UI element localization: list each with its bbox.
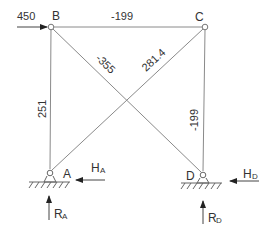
truss-diagram: B C A D 450 -199 251 -199 -355 281.4 H A… [0,0,272,236]
reaction-label-ra: R A [54,207,68,221]
reaction-label-hd: H D [243,167,258,181]
node-label-d: D [186,169,195,183]
member-cd [203,30,205,171]
node-label-a: A [63,167,71,181]
reaction-label-ha: H A [91,161,106,175]
load-label-450: 450 [17,10,35,22]
svg-text:H: H [91,161,100,175]
svg-text:D: D [216,216,222,225]
force-label-cd: -199 [188,109,200,131]
svg-text:A: A [100,166,106,175]
svg-text:A: A [62,212,68,221]
node-label-b: B [52,9,60,23]
force-label-ac: 281.4 [139,46,167,74]
node-label-c: C [195,10,204,24]
truss-svg: B C A D 450 -199 251 -199 -355 281.4 H A… [0,0,272,236]
svg-text:H: H [243,167,252,181]
member-ab [50,27,51,169]
force-label-ab: 251 [36,100,48,118]
force-label-bc: -199 [111,10,133,22]
svg-text:D: D [252,172,258,181]
joint-c [202,24,208,30]
joint-b [48,24,54,30]
reaction-label-rd: R D [208,211,222,225]
